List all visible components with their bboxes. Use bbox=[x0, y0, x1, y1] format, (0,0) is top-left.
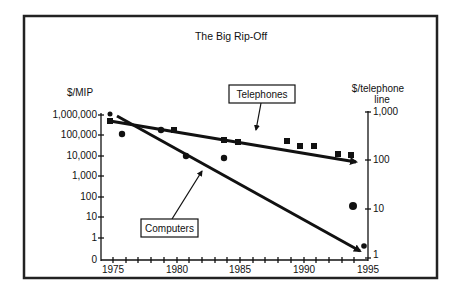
svg-text:1975: 1975 bbox=[102, 264, 125, 275]
svg-text:10: 10 bbox=[86, 211, 98, 222]
telephones-trend-line bbox=[110, 121, 356, 162]
left-axis-title: $/MIP bbox=[67, 87, 93, 98]
telephones-markers bbox=[107, 118, 354, 158]
svg-text:1980: 1980 bbox=[166, 264, 189, 275]
svg-text:1,000,000: 1,000,000 bbox=[53, 109, 98, 120]
svg-text:10: 10 bbox=[373, 203, 385, 214]
svg-text:1995: 1995 bbox=[357, 264, 380, 275]
computers-callout: Computers bbox=[141, 171, 202, 237]
x-tick-labels: 1975 1980 1985 1990 1995 bbox=[102, 264, 380, 275]
chart-frame bbox=[24, 16, 437, 278]
svg-text:1985: 1985 bbox=[229, 264, 252, 275]
left-y-tick-labels: 1,000,000 100,000 10,000 1,000 100 10 1 … bbox=[53, 109, 98, 265]
svg-text:1: 1 bbox=[373, 249, 379, 260]
right-y-tick-labels: 1,000 100 10 1 bbox=[373, 106, 398, 260]
svg-text:1,000: 1,000 bbox=[72, 170, 97, 181]
svg-text:100: 100 bbox=[373, 154, 390, 165]
right-axis-title-line1: $/telephone bbox=[352, 83, 405, 94]
svg-text:100: 100 bbox=[80, 191, 97, 202]
right-axis-title-line2: line bbox=[374, 94, 390, 105]
chart-figure: The Big Rip-Off $/MIP $/telephone line 1… bbox=[0, 0, 462, 294]
svg-text:1: 1 bbox=[91, 232, 97, 243]
svg-text:1990: 1990 bbox=[293, 264, 316, 275]
svg-text:Computers: Computers bbox=[145, 223, 194, 234]
svg-text:10,000: 10,000 bbox=[66, 150, 97, 161]
svg-text:Telephones: Telephones bbox=[236, 89, 287, 100]
left-y-axis bbox=[98, 113, 104, 261]
x-axis bbox=[101, 257, 368, 263]
svg-text:100,000: 100,000 bbox=[61, 129, 98, 140]
svg-text:0: 0 bbox=[91, 254, 97, 265]
chart-title: The Big Rip-Off bbox=[195, 30, 267, 42]
svg-text:1,000: 1,000 bbox=[373, 106, 398, 117]
right-y-axis bbox=[365, 111, 371, 261]
telephones-callout: Telephones bbox=[229, 85, 295, 130]
